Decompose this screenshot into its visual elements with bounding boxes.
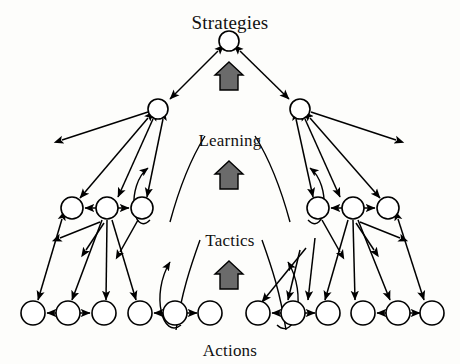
node-action-4[interactable]: [128, 301, 152, 325]
label-learning: Learning: [0, 131, 460, 151]
up-block-arrow-tactics-icon: [215, 261, 243, 289]
node-action-1[interactable]: [21, 301, 45, 325]
label-strategies: Strategies: [0, 12, 460, 34]
node-action-6[interactable]: [198, 301, 222, 325]
node-action-3[interactable]: [92, 301, 116, 325]
diagram-canvas: Strategies Learning Tactics Actions: [0, 0, 460, 364]
node-action-12[interactable]: [420, 301, 444, 325]
node-action-11[interactable]: [386, 301, 410, 325]
node-level2-1[interactable]: [148, 99, 168, 119]
node-action-5[interactable]: [163, 301, 187, 325]
edge-m4-a7: [262, 248, 306, 302]
node-tactics-6[interactable]: [377, 197, 399, 219]
block-arrows: [215, 62, 243, 289]
edge-t2-m6: [310, 118, 380, 198]
label-actions: Actions: [0, 341, 460, 361]
node-action-2[interactable]: [56, 301, 80, 325]
node-tactics-1[interactable]: [61, 197, 83, 219]
edges-level2-right-fan: [296, 112, 396, 198]
node-tactics-3[interactable]: [131, 197, 153, 219]
node-action-10[interactable]: [351, 301, 375, 325]
up-block-arrow-learning-icon: [215, 161, 243, 189]
edge-s1-t1: [170, 51, 218, 99]
node-tactics-5[interactable]: [342, 197, 364, 219]
node-tactics-4[interactable]: [307, 197, 329, 219]
node-action-8[interactable]: [281, 301, 305, 325]
edge-t1-m1: [80, 118, 148, 198]
label-tactics: Tactics: [0, 231, 460, 251]
edges-level2-left-fan: [62, 112, 163, 198]
edge-s1-t2: [240, 51, 289, 99]
node-strategies-1[interactable]: [219, 31, 239, 51]
diagram-graphics: [0, 0, 460, 364]
node-action-7[interactable]: [246, 301, 270, 325]
node-level2-2[interactable]: [290, 99, 310, 119]
node-action-9[interactable]: [316, 301, 340, 325]
up-block-arrow-strategies-icon: [215, 62, 243, 90]
node-tactics-2[interactable]: [96, 197, 118, 219]
